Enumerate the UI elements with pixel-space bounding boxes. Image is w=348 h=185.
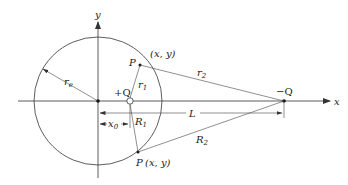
r1-label: r1 (138, 79, 147, 92)
R2-line (138, 101, 284, 152)
point-p-upper-label: P (128, 57, 136, 68)
L-label: L (188, 108, 196, 119)
image-charge-diagram: x y re +Q −Q P (x, y) r1 r2 P (x, y) R1 … (0, 0, 348, 185)
point-p-lower-coords: (x, y) (145, 157, 171, 168)
y-axis-label: y (94, 9, 101, 20)
R1-label: R1 (134, 116, 147, 129)
R2-label: R2 (195, 134, 209, 147)
point-p-lower-label: P (135, 157, 143, 168)
negative-charge-label: −Q (276, 86, 293, 97)
R1-line (130, 104, 138, 152)
positive-charge (127, 98, 133, 104)
positive-charge-label: +Q (114, 87, 131, 98)
radius-label: re (64, 76, 73, 89)
r2-label: r2 (197, 67, 207, 80)
point-p-upper-coords: (x, y) (150, 48, 176, 59)
x-axis-label: x (334, 96, 340, 107)
